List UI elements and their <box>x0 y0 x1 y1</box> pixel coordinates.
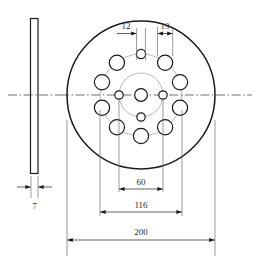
dimension-label-60: 60 <box>137 177 147 187</box>
dimension-plate-thickness: 7 <box>17 176 52 211</box>
dimension-label-116: 116 <box>134 200 148 210</box>
dimension-label-19: 19 <box>161 21 171 31</box>
dimension-large-hole-diameter: 19 <box>158 21 173 56</box>
arrowhead-12 <box>131 32 136 36</box>
center-hole <box>135 89 148 102</box>
arrowhead-60-right <box>157 187 162 191</box>
engineering-drawing-canvas: 7 <box>0 0 259 271</box>
arrowhead-116-left <box>100 210 105 214</box>
outer-hole-bottom <box>133 128 148 143</box>
arrowhead-200-right <box>209 238 215 242</box>
arrowhead-right-pointing <box>25 185 30 189</box>
outer-hole-3 <box>172 100 187 115</box>
arrowhead-116-right <box>176 210 181 214</box>
arrowhead-left-pointing <box>38 185 43 189</box>
outer-hole-top-small <box>136 49 145 58</box>
dimension-label-12: 12 <box>122 21 131 31</box>
inner-hole-group <box>115 89 167 122</box>
outer-hole-2 <box>172 75 187 90</box>
plate-side-profile <box>31 19 39 174</box>
inner-hole-bottom <box>137 113 145 121</box>
arrowhead-19-left <box>158 32 163 36</box>
inner-hole-right <box>159 91 167 99</box>
outer-hole-4 <box>158 120 173 135</box>
outer-hole-8 <box>109 55 124 70</box>
front-face-view <box>60 21 252 169</box>
inner-hole-left <box>115 91 123 99</box>
side-section-view <box>8 19 60 174</box>
dimension-label-200: 200 <box>134 227 148 237</box>
outer-hole-1 <box>158 55 173 70</box>
dimension-label-thickness: 7 <box>32 201 37 211</box>
arrowhead-60-left <box>119 187 124 191</box>
arrowhead-200-left <box>67 238 73 242</box>
outer-hole-7 <box>94 75 109 90</box>
outer-hole-5 <box>109 120 124 135</box>
outer-hole-6 <box>94 100 109 115</box>
arrowhead-19-right <box>167 32 172 36</box>
